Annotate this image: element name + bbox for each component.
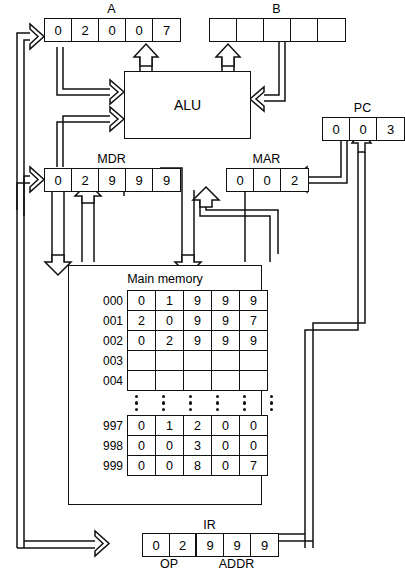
ellipsis-dot — [216, 395, 219, 398]
register-b-cell-4[interactable] — [318, 19, 345, 41]
register-b[interactable] — [209, 18, 346, 42]
memory-address-001: 001 — [97, 311, 128, 331]
register-mdr-cell-1[interactable]: 2 — [72, 169, 99, 191]
memory-cell-997-0[interactable]: 0 — [128, 416, 156, 436]
memory-cell-001-4[interactable]: 7 — [240, 311, 268, 331]
memory-ellipsis-column — [150, 395, 177, 411]
memory-row: 99800300 — [97, 436, 268, 456]
register-b-cell-1[interactable] — [237, 19, 264, 41]
memory-cell-000-0[interactable]: 0 — [128, 291, 156, 311]
register-pc[interactable]: 003 — [322, 117, 405, 141]
memory-cell-999-2[interactable]: 8 — [184, 456, 212, 476]
ellipsis-dot — [270, 401, 273, 404]
memory-cell-998-1[interactable]: 0 — [156, 436, 184, 456]
memory-cell-004-0[interactable] — [128, 371, 156, 391]
memory-address-999: 999 — [97, 456, 128, 476]
memory-cell-004-1[interactable] — [156, 371, 184, 391]
memory-address-998: 998 — [97, 436, 128, 456]
memory-cell-997-3[interactable]: 0 — [212, 416, 240, 436]
memory-cell-003-4[interactable] — [240, 351, 268, 371]
memory-row: 004 — [97, 371, 268, 391]
memory-cell-003-3[interactable] — [212, 351, 240, 371]
memory-cell-003-0[interactable] — [128, 351, 156, 371]
memory-cell-998-0[interactable]: 0 — [128, 436, 156, 456]
memory-cell-998-4[interactable]: 0 — [240, 436, 268, 456]
register-pc-cell-1[interactable]: 0 — [350, 118, 377, 140]
register-mdr[interactable]: 02999 — [44, 168, 181, 192]
memory-cell-001-2[interactable]: 9 — [184, 311, 212, 331]
memory-cell-002-0[interactable]: 0 — [128, 331, 156, 351]
memory-cell-000-4[interactable]: 9 — [240, 291, 268, 311]
memory-cell-001-1[interactable]: 0 — [156, 311, 184, 331]
register-ir-cell-1[interactable]: 2 — [170, 534, 197, 556]
register-mdr-label: MDR — [44, 152, 179, 166]
register-a-cell-1[interactable]: 2 — [72, 19, 99, 41]
register-a-cell-0[interactable]: 0 — [45, 19, 72, 41]
register-pc-cell-2[interactable]: 3 — [377, 118, 404, 140]
memory-cell-997-1[interactable]: 1 — [156, 416, 184, 436]
memory-rows-bottom: 997012009980030099900807 — [97, 415, 268, 476]
register-ir-cell-4[interactable]: 9 — [251, 534, 278, 556]
register-a-label: A — [44, 2, 179, 16]
memory-cell-003-1[interactable] — [156, 351, 184, 371]
register-ir[interactable]: 02999 — [142, 533, 279, 557]
memory-address-002: 002 — [97, 331, 128, 351]
alu-block: ALU — [124, 71, 251, 139]
register-a[interactable]: 02007 — [44, 18, 181, 42]
register-b-cell-2[interactable] — [264, 19, 291, 41]
memory-cell-999-1[interactable]: 0 — [156, 456, 184, 476]
ellipsis-dot — [162, 395, 165, 398]
register-mar-cell-0[interactable]: 0 — [227, 169, 254, 191]
memory-grid: 000019990012099700202999003004 997012009… — [97, 290, 285, 476]
memory-address-997: 997 — [97, 416, 128, 436]
register-b-cell-0[interactable] — [210, 19, 237, 41]
register-b-cell-3[interactable] — [291, 19, 318, 41]
register-mar-cell-1[interactable]: 0 — [254, 169, 281, 191]
memory-cell-000-1[interactable]: 1 — [156, 291, 184, 311]
memory-cell-999-4[interactable]: 7 — [240, 456, 268, 476]
memory-cell-004-2[interactable] — [184, 371, 212, 391]
memory-cell-002-1[interactable]: 2 — [156, 331, 184, 351]
memory-cell-002-3[interactable]: 9 — [212, 331, 240, 351]
memory-cell-000-3[interactable]: 9 — [212, 291, 240, 311]
main-memory-title: Main memory — [69, 272, 261, 286]
register-mdr-cell-3[interactable]: 9 — [126, 169, 153, 191]
register-mar[interactable]: 002 — [226, 168, 309, 192]
memory-cell-004-4[interactable] — [240, 371, 268, 391]
ellipsis-dot — [135, 401, 138, 404]
memory-cell-999-3[interactable]: 0 — [212, 456, 240, 476]
register-pc-cell-0[interactable]: 0 — [323, 118, 350, 140]
register-ir-cell-2[interactable]: 9 — [197, 534, 224, 556]
register-mdr-cell-0[interactable]: 0 — [45, 169, 72, 191]
register-a-cell-2[interactable]: 0 — [99, 19, 126, 41]
memory-address-000: 000 — [97, 291, 128, 311]
register-mar-cell-2[interactable]: 2 — [281, 169, 308, 191]
memory-cell-002-2[interactable]: 9 — [184, 331, 212, 351]
main-memory-block: Main memory 0000199900120997002029990030… — [68, 265, 262, 505]
memory-cell-001-3[interactable]: 9 — [212, 311, 240, 331]
register-a-cell-3[interactable]: 0 — [126, 19, 153, 41]
memory-cell-003-2[interactable] — [184, 351, 212, 371]
memory-cell-004-3[interactable] — [212, 371, 240, 391]
memory-cell-002-4[interactable]: 9 — [240, 331, 268, 351]
memory-cell-999-0[interactable]: 0 — [128, 456, 156, 476]
memory-address-003: 003 — [97, 351, 128, 371]
register-a-cell-4[interactable]: 7 — [153, 19, 180, 41]
register-ir-label: IR — [142, 518, 277, 532]
ellipsis-dot — [162, 408, 165, 411]
ellipsis-dot — [270, 395, 273, 398]
memory-cell-001-0[interactable]: 2 — [128, 311, 156, 331]
register-mdr-cell-4[interactable]: 9 — [153, 169, 180, 191]
memory-row: 99701200 — [97, 416, 268, 436]
memory-ellipsis-column — [177, 395, 204, 411]
register-ir-cell-3[interactable]: 9 — [224, 534, 251, 556]
register-ir-cell-0[interactable]: 0 — [143, 534, 170, 556]
ellipsis-dot — [162, 401, 165, 404]
memory-cell-000-2[interactable]: 9 — [184, 291, 212, 311]
memory-cell-997-4[interactable]: 0 — [240, 416, 268, 436]
memory-cell-998-3[interactable]: 0 — [212, 436, 240, 456]
memory-cell-997-2[interactable]: 2 — [184, 416, 212, 436]
memory-cell-998-2[interactable]: 3 — [184, 436, 212, 456]
memory-ellipsis-column — [123, 395, 150, 411]
register-mdr-cell-2[interactable]: 9 — [99, 169, 126, 191]
